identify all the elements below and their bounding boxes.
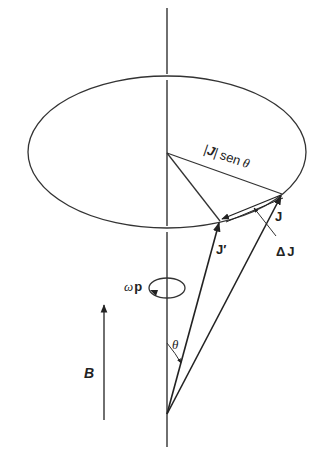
J-prime-label: J′ <box>216 242 226 257</box>
radius-label: |J|senθ <box>202 142 252 172</box>
delta-J-label: ΔJ <box>276 244 295 259</box>
radius-line-j-prime <box>167 153 220 221</box>
vector-J <box>167 196 281 414</box>
vector-J-prime <box>167 223 219 414</box>
B-field-arrow: B <box>84 305 104 420</box>
svg-text:B: B <box>84 365 94 381</box>
theta-angle-arc: θ <box>167 337 181 363</box>
omega-p-rotation: ωp <box>124 278 185 298</box>
precession-diagram: |J|senθ J J′ ΔJ ωp θ B <box>0 0 326 468</box>
J-label: J <box>275 209 282 224</box>
svg-text:ωp: ωp <box>124 279 142 294</box>
svg-text:θ: θ <box>172 337 179 352</box>
